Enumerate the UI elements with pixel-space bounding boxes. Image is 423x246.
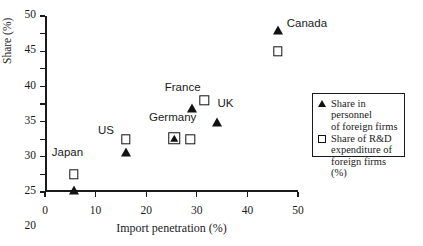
data-point-triangle [212,117,222,126]
y-axis-title: Share (%) [2,50,14,64]
y-tick-mark: 20 [40,121,45,122]
y-tick-label: 25 [25,186,37,198]
y-tick-mark: 50 [40,15,45,16]
x-tick-mark: 20 [146,192,147,197]
point-label: Japan [52,147,83,159]
point-label: France [165,82,201,94]
y-tick-mark: 45 [40,33,45,34]
plot-area: 05101520253035404550 01020304050 JapanUS… [45,16,298,192]
point-label: UK [217,98,233,110]
y-tick-mark: 30 [40,86,45,87]
y-tick-label: 50 [25,10,37,22]
legend-square-icon [318,135,326,143]
data-point-square [273,46,282,55]
x-tick-label: 10 [90,205,102,217]
data-point-square [121,134,130,143]
y-tick-mark: 35 [40,68,45,69]
data-point-triangle [273,26,283,35]
y-tick-label: 20 [25,221,37,233]
point-label: Germany [149,112,196,124]
x-tick-label: 50 [292,205,304,217]
x-tick-label: 20 [140,205,152,217]
point-label: US [98,125,114,137]
y-tick-label: 45 [25,45,37,57]
y-tick-mark: 10 [40,156,45,157]
y-tick-mark: 5 [40,174,45,175]
x-axis-line [45,190,298,192]
legend-label-line: of foreign firms [331,121,401,132]
legend-triangle-icon [318,100,326,107]
data-point-square [200,96,209,105]
y-tick-label: 40 [25,80,37,92]
y-tick-mark: 15 [40,139,45,140]
legend-entry: Share of R&Dexpenditure offoreign firms … [317,133,401,179]
data-point-combined [168,132,180,144]
x-tick-mark: 40 [247,192,248,197]
data-point-square [186,134,195,143]
x-tick-mark: 0 [44,192,45,197]
chart-figure: Share (%) Import penetration (%) 0510152… [0,0,423,246]
legend-entry: Share in personnelof foreign firms [317,98,401,132]
legend-label-line: Share in personnel [331,98,401,121]
y-tick-label: 30 [25,150,37,162]
x-tick-mark: 50 [297,192,298,197]
legend-label-line: expenditure of [331,144,401,155]
point-label: Canada [287,18,327,30]
legend-label-line: Share of R&D [331,133,401,144]
data-point-square [69,170,78,179]
legend-label-line: foreign firms (%) [331,156,401,179]
y-tick-label: 35 [25,115,37,127]
x-tick-label: 40 [242,205,254,217]
y-tick-mark: 40 [40,51,45,52]
legend-box: Share in personnelof foreign firmsShare … [312,93,405,157]
x-tick-mark: 10 [95,192,96,197]
data-point-triangle [69,185,79,194]
x-axis-title: Import penetration (%) [45,222,298,234]
data-point-triangle [121,147,131,156]
x-tick-label: 30 [191,205,203,217]
y-tick-mark: 25 [40,103,45,104]
y-axis-line [45,16,47,192]
x-tick-label: 0 [42,205,48,217]
x-tick-mark: 30 [196,192,197,197]
